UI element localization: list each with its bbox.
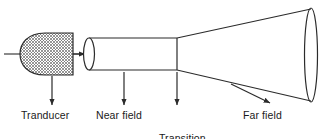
label-transition-zone: Transition zone bbox=[159, 110, 206, 139]
near-field-ellipse-cap bbox=[84, 38, 95, 70]
far-field-upper-line bbox=[177, 9, 311, 38]
label-near-field: Near field bbox=[96, 110, 142, 122]
far-field-lower-line bbox=[177, 70, 311, 101]
ultrasound-beam-diagram: Tranducer Near field Transition zone Far… bbox=[0, 0, 330, 139]
label-far-field: Far field bbox=[243, 110, 282, 122]
label-transition-zone-line1: Transition bbox=[159, 133, 206, 139]
far-field-ellipse-cap bbox=[305, 8, 318, 102]
label-transducer: Tranducer bbox=[21, 110, 69, 122]
transducer-body bbox=[20, 33, 73, 75]
